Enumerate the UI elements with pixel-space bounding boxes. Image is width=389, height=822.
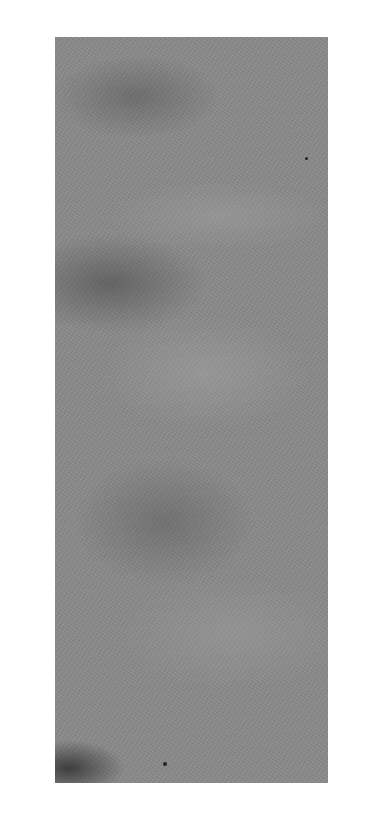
dark-speck: [163, 762, 167, 766]
dark-speck: [305, 157, 308, 160]
textured-surface-panel: [55, 37, 328, 783]
